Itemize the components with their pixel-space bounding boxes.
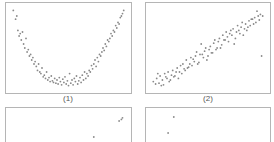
data-point bbox=[20, 39, 22, 41]
scatter-panel-4 bbox=[145, 107, 271, 142]
data-point bbox=[49, 81, 51, 83]
data-point bbox=[55, 82, 57, 84]
data-point bbox=[101, 51, 103, 53]
data-point bbox=[30, 54, 32, 56]
data-point bbox=[118, 120, 120, 122]
data-point bbox=[176, 67, 178, 69]
data-point bbox=[214, 39, 216, 41]
data-point bbox=[31, 59, 33, 61]
data-point bbox=[190, 57, 192, 59]
data-point bbox=[174, 75, 176, 77]
data-point bbox=[180, 65, 182, 67]
data-point bbox=[256, 10, 258, 12]
data-point bbox=[253, 23, 255, 25]
data-point bbox=[219, 38, 221, 40]
data-point bbox=[179, 71, 181, 73]
data-point bbox=[211, 52, 213, 54]
panel-label-2: (2) bbox=[145, 94, 271, 103]
data-point bbox=[249, 25, 251, 27]
scatter-panel-1 bbox=[5, 2, 132, 94]
data-point bbox=[16, 15, 18, 17]
data-point bbox=[159, 75, 161, 77]
data-point bbox=[191, 65, 193, 67]
data-point bbox=[157, 73, 159, 75]
data-point bbox=[106, 46, 108, 48]
data-point bbox=[172, 70, 174, 72]
scatter-plot-4 bbox=[146, 108, 270, 142]
data-point bbox=[87, 75, 89, 77]
data-point bbox=[76, 75, 78, 77]
data-point bbox=[15, 18, 17, 20]
data-point bbox=[121, 15, 123, 17]
data-point bbox=[232, 28, 234, 30]
data-point bbox=[182, 63, 184, 65]
data-point bbox=[215, 49, 217, 51]
data-point bbox=[167, 132, 169, 134]
data-point bbox=[170, 79, 172, 81]
data-point bbox=[72, 84, 74, 86]
data-point bbox=[192, 58, 194, 60]
data-point bbox=[67, 80, 69, 82]
data-point bbox=[238, 30, 240, 32]
data-point bbox=[241, 22, 243, 24]
data-point bbox=[247, 26, 249, 28]
data-point bbox=[206, 59, 208, 61]
data-point bbox=[38, 63, 40, 65]
data-point bbox=[221, 44, 223, 46]
data-point bbox=[84, 71, 86, 73]
data-point bbox=[245, 23, 247, 25]
data-point bbox=[184, 70, 186, 72]
scatter-plot-2 bbox=[146, 3, 270, 93]
data-point bbox=[255, 22, 257, 24]
data-point bbox=[12, 10, 14, 12]
data-point bbox=[42, 76, 44, 78]
data-point bbox=[18, 35, 20, 37]
data-point bbox=[50, 75, 52, 77]
data-point bbox=[195, 55, 197, 57]
data-point bbox=[183, 68, 185, 70]
data-point bbox=[207, 55, 209, 57]
data-point bbox=[116, 27, 118, 29]
data-point bbox=[48, 77, 50, 79]
data-point bbox=[107, 39, 109, 41]
data-point bbox=[233, 43, 235, 45]
data-point bbox=[189, 63, 191, 65]
data-point bbox=[198, 62, 200, 64]
data-point bbox=[17, 30, 19, 32]
data-point bbox=[33, 63, 35, 65]
data-point bbox=[199, 54, 201, 56]
data-point bbox=[115, 25, 117, 27]
data-point bbox=[114, 31, 116, 33]
data-point bbox=[35, 66, 37, 68]
data-point bbox=[119, 17, 121, 19]
data-point bbox=[175, 71, 177, 73]
data-point bbox=[24, 47, 26, 49]
data-point bbox=[123, 10, 125, 12]
data-point bbox=[32, 57, 34, 59]
data-point bbox=[56, 79, 58, 81]
data-point bbox=[113, 30, 115, 32]
data-point bbox=[89, 71, 91, 73]
data-point bbox=[213, 42, 215, 44]
data-point bbox=[103, 50, 105, 52]
data-point bbox=[52, 80, 54, 82]
data-point bbox=[26, 51, 28, 53]
data-point bbox=[262, 15, 264, 17]
data-point bbox=[62, 78, 64, 80]
scatter-plot-1 bbox=[6, 3, 131, 93]
data-point bbox=[43, 74, 45, 76]
data-point bbox=[122, 13, 124, 15]
data-point bbox=[23, 43, 25, 45]
data-point bbox=[165, 76, 167, 78]
data-point bbox=[58, 77, 60, 79]
data-point bbox=[75, 81, 77, 83]
data-point bbox=[160, 85, 162, 87]
data-point bbox=[40, 73, 42, 75]
data-point bbox=[100, 55, 102, 57]
data-point bbox=[181, 73, 183, 75]
data-point bbox=[117, 22, 119, 24]
data-point bbox=[61, 84, 63, 86]
data-point bbox=[109, 38, 111, 40]
data-point bbox=[86, 73, 88, 75]
data-point bbox=[25, 38, 27, 40]
